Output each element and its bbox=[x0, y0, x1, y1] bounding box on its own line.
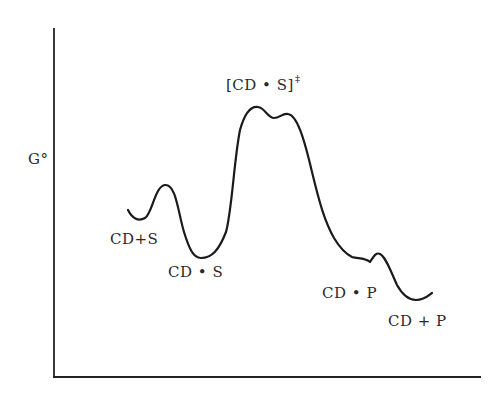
transition-state-label: [CD • S]‡ bbox=[226, 76, 300, 94]
y-axis-label: G° bbox=[28, 150, 48, 168]
products-label: CD + P bbox=[388, 312, 447, 330]
enzyme-substrate-complex-label: CD • S bbox=[168, 263, 223, 281]
transition-state-text: [CD • S] bbox=[226, 76, 294, 94]
energy-diagram bbox=[0, 0, 499, 398]
reactants-label: CD+S bbox=[110, 230, 158, 248]
enzyme-product-complex-label: CD • P bbox=[322, 284, 377, 302]
double-dagger-icon: ‡ bbox=[295, 73, 301, 84]
